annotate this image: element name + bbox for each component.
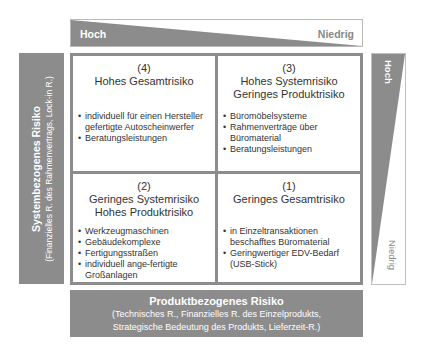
quadrant-2: (2) Geringes Systemrisiko Hohes Produktr… xyxy=(73,174,215,282)
quadrant-title: Hohes Systemrisiko xyxy=(218,75,360,88)
list-item: Geringwertiger EDV-Bedarf (USB-Stick) xyxy=(230,248,356,270)
quadrant-examples: Werkzeugmaschinen Gebäudekomplexe Fertig… xyxy=(73,226,215,281)
quadrant-title: Geringes Systemrisiko xyxy=(73,193,215,206)
product-risk-scale-banner: Hoch Niedrig xyxy=(70,19,363,47)
quadrant-title: Hohes Gesamtrisiko xyxy=(73,75,215,88)
list-item: individuell ange-fertigte Großanlagen xyxy=(85,259,211,281)
quadrant-number: (4) xyxy=(73,62,215,75)
quadrant-examples: individuell für einen Hersteller geferti… xyxy=(73,111,215,144)
list-item: Büromöbelsysteme xyxy=(230,111,356,122)
list-item: in Einzeltransaktionen beschafftes Bürom… xyxy=(230,226,356,248)
scale-low-label: Niedrig xyxy=(387,240,398,270)
risk-matrix: (4) Hohes Gesamtrisiko individuell für e… xyxy=(70,53,363,285)
scale-low-label: Niedrig xyxy=(318,28,354,40)
quadrant-subtitle: Geringes Produktrisiko xyxy=(218,88,360,101)
product-risk-title: Produktbezogenes Risiko xyxy=(70,294,363,308)
quadrant-number: (1) xyxy=(218,180,360,193)
list-item: individuell für einen Hersteller geferti… xyxy=(85,111,211,133)
quadrant-3: (3) Hohes Systemrisiko Geringes Produktr… xyxy=(218,56,360,171)
quadrant-title: Geringes Gesamtrisiko xyxy=(218,193,360,206)
quadrant-number: (2) xyxy=(73,180,215,193)
quadrant-examples: Büromöbelsysteme Rahmenverträge über Bür… xyxy=(218,111,360,155)
product-risk-subtitle-line1: (Technisches R., Finanzielles R. des Ein… xyxy=(70,308,363,321)
list-item: Beratungsleistungen xyxy=(230,144,356,155)
list-item: Fertigungsstraßen xyxy=(85,248,211,259)
list-item: Gebäudekomplexe xyxy=(85,237,211,248)
quadrant-1: (1) Geringes Gesamtrisiko in Einzeltrans… xyxy=(218,174,360,282)
list-item: Beratungsleistungen xyxy=(85,133,211,144)
product-risk-subtitle-line2: Strategische Bedeutung des Produkts, Lie… xyxy=(70,321,363,334)
system-risk-scale-bar: Hoch Niedrig xyxy=(371,53,406,285)
quadrant-number: (3) xyxy=(218,62,360,75)
scale-high-label: Hoch xyxy=(383,60,394,84)
scale-high-label: Hoch xyxy=(80,28,106,40)
system-risk-subtitle: (Finanzielles R. des Rahmenvertrags, Loc… xyxy=(42,53,54,284)
quadrant-subtitle: Hohes Produktrisiko xyxy=(73,206,215,219)
quadrant-examples: in Einzeltransaktionen beschafftes Bürom… xyxy=(218,226,360,270)
product-risk-axis: Produktbezogenes Risiko (Technisches R.,… xyxy=(70,290,363,337)
system-risk-axis: Systembezogenes Risiko (Finanzielles R. … xyxy=(19,53,64,284)
system-risk-title: Systembezogenes Risiko xyxy=(29,53,42,284)
quadrant-4: (4) Hohes Gesamtrisiko individuell für e… xyxy=(73,56,215,171)
list-item: Werkzeugmaschinen xyxy=(85,226,211,237)
list-item: Rahmenverträge über Büromaterial xyxy=(230,122,356,144)
